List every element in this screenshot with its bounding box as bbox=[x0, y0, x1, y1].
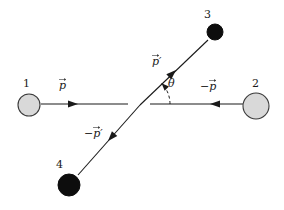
minus-sign: − bbox=[200, 80, 209, 93]
diagram-canvas bbox=[0, 0, 284, 210]
prime-mark: ′ bbox=[159, 55, 161, 67]
vector-p-label: p bbox=[59, 80, 66, 91]
particle-2 bbox=[243, 93, 269, 119]
vector-neg-p-prime-graphic bbox=[78, 105, 140, 175]
particle-4-label: 4 bbox=[56, 159, 63, 170]
vector-p-graphic bbox=[41, 100, 128, 107]
particle-3 bbox=[207, 24, 223, 40]
vector-neg-p-arrowhead bbox=[210, 100, 220, 107]
vector-p-glyph: p bbox=[59, 80, 66, 91]
particle-3-label: 3 bbox=[204, 9, 211, 20]
vector-p-letter: p bbox=[59, 79, 66, 92]
vector-p-prime-letter: p bbox=[152, 55, 159, 68]
vector-p-prime-graphic bbox=[140, 40, 208, 105]
vector-neg-p-label: − p bbox=[200, 81, 216, 92]
particle-2-label: 2 bbox=[252, 78, 259, 89]
vector-p-prime-glyph: p bbox=[152, 56, 159, 67]
prime-mark: ′ bbox=[100, 127, 102, 139]
particle-1-label: 1 bbox=[23, 78, 30, 89]
vector-neg-p-letter: p bbox=[209, 80, 216, 93]
vector-neg-p-graphic bbox=[150, 100, 243, 107]
vector-neg-p-prime-glyph: p bbox=[93, 128, 100, 139]
theta-label: θ bbox=[168, 78, 175, 89]
vector-p-prime-label: p ′ bbox=[152, 56, 161, 67]
vector-neg-p-prime-letter: p bbox=[93, 127, 100, 140]
vector-neg-p-glyph: p bbox=[209, 81, 216, 92]
particle-1 bbox=[18, 94, 40, 116]
collision-diagram: p − p p bbox=[0, 0, 284, 210]
particle-4 bbox=[58, 174, 80, 196]
vector-neg-p-prime-label: − p ′ bbox=[84, 128, 103, 139]
vector-p-arrowhead bbox=[68, 100, 78, 107]
minus-sign: − bbox=[84, 127, 93, 140]
